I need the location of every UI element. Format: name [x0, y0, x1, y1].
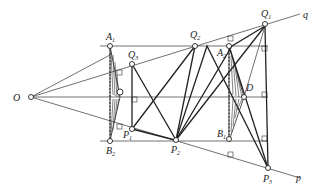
point-P2: [174, 138, 179, 143]
label-Q1: Q1: [261, 8, 271, 20]
point-Q1: [263, 22, 268, 27]
label-B2: B2: [106, 145, 115, 157]
label-q: q: [303, 9, 308, 20]
point-O: [29, 95, 34, 100]
label-D: D: [245, 82, 254, 93]
point-B2: [108, 139, 113, 144]
zigzag-path: [132, 46, 268, 168]
point-A2: [227, 44, 232, 49]
point-P1: [130, 127, 135, 132]
point-B1: [227, 137, 232, 142]
point-Q3: [130, 62, 135, 67]
label-p: p: [295, 172, 301, 183]
line-P1-Q3b: [132, 129, 175, 140]
point-A1: [108, 44, 113, 49]
point-Q2: [193, 44, 198, 49]
label-O: O: [13, 92, 20, 103]
geometry-diagram: O q p A1 Q3 Q2 Q1 A2 D P1 B2 P2 B1 P3: [0, 0, 321, 194]
label-P2: P2: [170, 144, 180, 156]
point-D: [242, 95, 247, 100]
point-P3: [266, 166, 271, 171]
point-inner-left: [117, 89, 123, 95]
label-P3: P3: [262, 173, 272, 185]
label-Q2: Q2: [190, 29, 200, 41]
label-B1: B1: [217, 128, 226, 140]
label-Q3: Q3: [128, 49, 138, 61]
label-A2: A2: [216, 47, 226, 59]
label-A1: A1: [105, 31, 115, 43]
